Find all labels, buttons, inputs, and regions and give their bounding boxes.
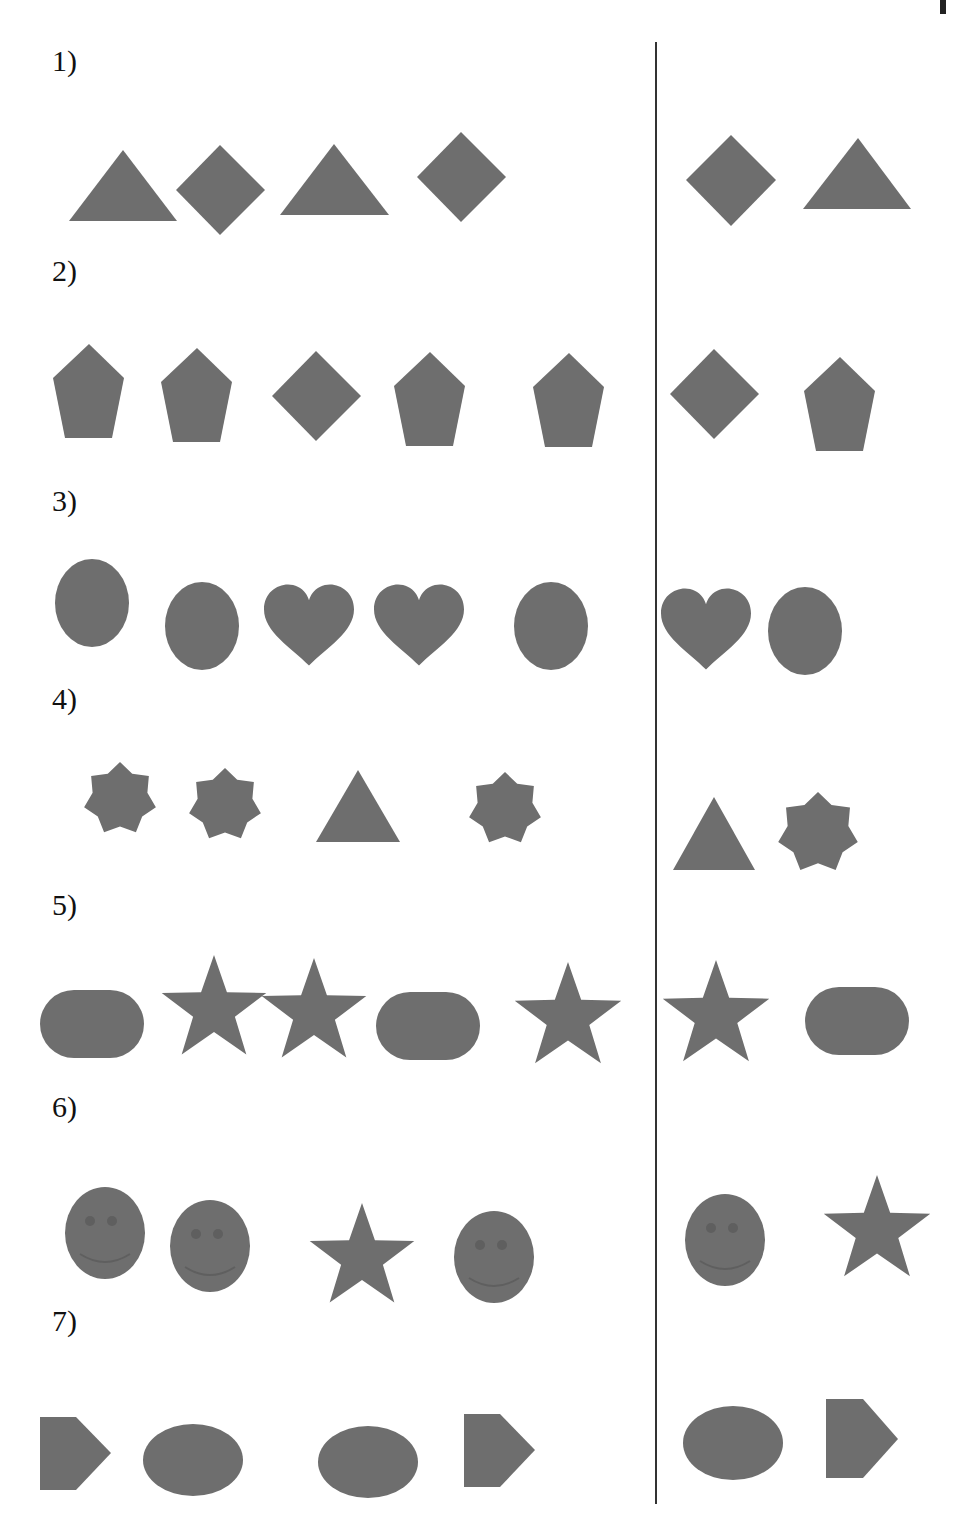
smiley-face-shape xyxy=(65,1187,145,1279)
star-shape xyxy=(310,1203,415,1302)
pentagon-shape xyxy=(533,353,604,447)
diamond-shape xyxy=(417,132,506,222)
ellipse-shape xyxy=(318,1426,418,1498)
diamond-shape xyxy=(670,349,759,439)
pentagon-shape xyxy=(53,344,124,438)
star-shape xyxy=(663,960,770,1061)
triangle-shape xyxy=(316,770,400,842)
rounded-rectangle-shape xyxy=(376,992,480,1060)
oval-shape xyxy=(165,582,239,670)
ellipse-shape xyxy=(143,1424,243,1496)
seven-point-star-shape xyxy=(469,772,541,842)
triangle-shape xyxy=(803,138,911,209)
oval-shape xyxy=(768,587,842,675)
triangle-shape xyxy=(280,144,389,215)
seven-point-star-shape xyxy=(778,792,858,870)
heart-shape xyxy=(661,589,751,670)
pentagon-shape xyxy=(161,348,232,442)
pentagon-arrow-shape xyxy=(826,1399,898,1478)
oval-shape xyxy=(55,559,129,647)
heart-shape xyxy=(264,585,354,666)
smiley-face-shape xyxy=(454,1211,534,1303)
star-shape xyxy=(262,958,367,1057)
rounded-rectangle-shape xyxy=(40,990,144,1058)
pentagon-arrow-shape xyxy=(40,1417,111,1490)
rounded-rectangle-shape xyxy=(805,987,909,1055)
star-shape xyxy=(162,955,267,1054)
shapes-canvas xyxy=(0,0,964,1517)
star-shape xyxy=(515,962,622,1063)
pentagon-arrow-shape xyxy=(464,1414,535,1487)
diamond-shape xyxy=(686,135,776,226)
pentagon-shape xyxy=(804,357,875,451)
smiley-face-shape xyxy=(685,1194,765,1286)
diamond-shape xyxy=(272,351,361,441)
triangle-shape xyxy=(69,150,177,221)
seven-point-star-shape xyxy=(189,768,261,838)
smiley-face-shape xyxy=(170,1200,250,1292)
ellipse-shape xyxy=(683,1406,783,1480)
triangle-shape xyxy=(673,797,755,870)
oval-shape xyxy=(514,582,588,670)
star-shape xyxy=(824,1175,931,1276)
diamond-shape xyxy=(176,145,265,235)
seven-point-star-shape xyxy=(84,762,156,832)
pentagon-shape xyxy=(394,352,465,446)
heart-shape xyxy=(374,585,464,666)
